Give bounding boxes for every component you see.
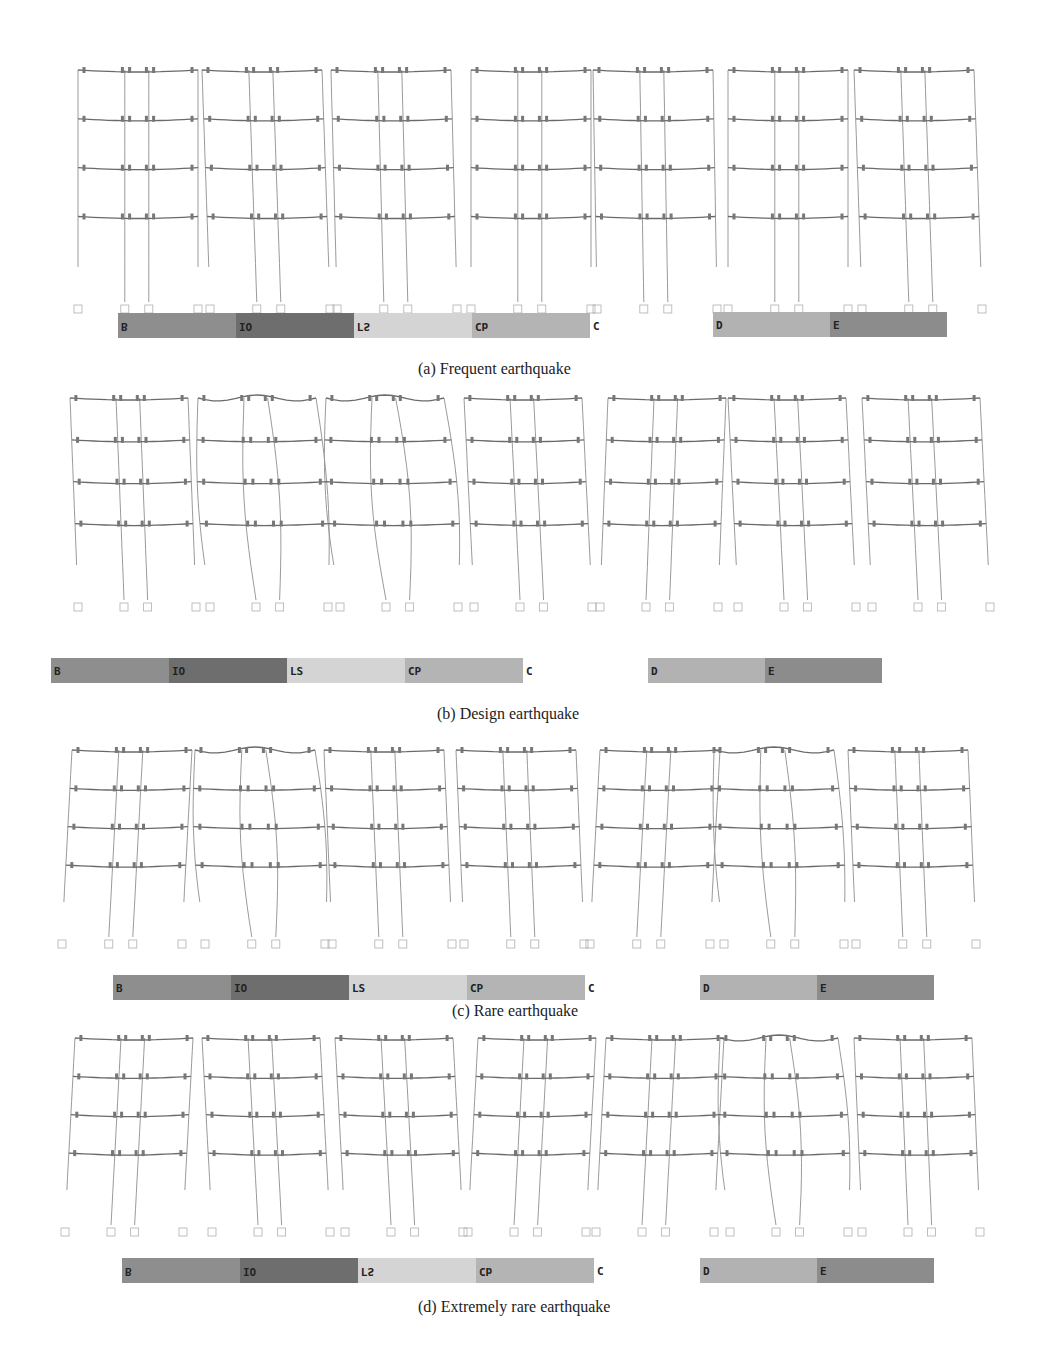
- legend-segment-e: E: [765, 658, 882, 683]
- deformed-frame: [854, 67, 986, 313]
- legend-label: C: [597, 1264, 604, 1277]
- deformed-frame: [197, 395, 332, 611]
- legend-segment-e: E: [817, 975, 934, 1000]
- frames-drawing: [0, 385, 1039, 685]
- deformed-frame: [848, 747, 980, 948]
- deformed-frame: [593, 67, 721, 313]
- legend-label: D: [703, 981, 710, 994]
- deformed-frame: [202, 67, 334, 313]
- deformed-frame: [862, 395, 994, 611]
- deformed-frame: [324, 747, 456, 948]
- legend-label: CP: [408, 664, 421, 677]
- legend-segment-io: IO: [231, 975, 349, 1000]
- legend-label: IO: [239, 319, 252, 332]
- legend-label: ΓS: [357, 319, 370, 332]
- legend-label: E: [833, 318, 840, 331]
- legend-segment-cp: CP: [405, 658, 523, 683]
- deformed-frame: [61, 1035, 193, 1236]
- legend-segment-c: C: [523, 658, 539, 683]
- legend-segment-ls: ΓS: [358, 1258, 476, 1283]
- legend-segment-e: E: [830, 312, 947, 337]
- legend-segment-c: C: [590, 313, 606, 338]
- deformed-frame: [58, 747, 192, 948]
- legend-segment-io: IO: [240, 1258, 358, 1283]
- legend-segment-c: C: [585, 975, 601, 1000]
- deformed-frame: [586, 747, 720, 948]
- legend-segment-d: D: [648, 658, 765, 683]
- legend-segment-ls: LS: [287, 658, 405, 683]
- deformed-frame: [193, 747, 329, 948]
- hinge-state-legend: BIOΓSCbC: [118, 313, 606, 338]
- panel-a: BIOΓSCbCDE(a) Frequent earthquake: [0, 40, 1039, 370]
- panel-caption: (d) Extremely rare earthquake: [418, 1298, 610, 1316]
- deformed-frame: [324, 395, 462, 611]
- deformed-frame: [596, 395, 726, 611]
- legend-label: E: [820, 1264, 827, 1277]
- legend-segment-e: E: [817, 1258, 934, 1283]
- legend-label: D: [703, 1264, 710, 1277]
- deformed-frame: [718, 1035, 852, 1236]
- legend-label: IO: [234, 981, 247, 994]
- legend-label: B: [121, 319, 128, 332]
- legend-segment-d: D: [700, 975, 817, 1000]
- hinge-state-legend: BIOLSCPC: [113, 975, 601, 1000]
- legend-segment-b: B: [51, 658, 169, 683]
- legend-label: D: [716, 318, 723, 331]
- legend-label: Cb: [479, 1264, 492, 1277]
- legend-segment-io: IO: [236, 313, 354, 338]
- panel-b: BIOLSCPCDE(b) Design earthquake: [0, 385, 1039, 715]
- legend-segment-d: D: [713, 312, 830, 337]
- deformed-frame: [464, 1035, 596, 1236]
- legend-segment-b: B: [113, 975, 231, 1000]
- hinge-state-legend-secondary: DE: [713, 312, 947, 337]
- deformed-frame: [202, 1035, 334, 1236]
- legend-segment-cp: Cb: [472, 313, 590, 338]
- panel-d: BIOΓSCbCDE(d) Extremely rare earthquake: [0, 1030, 1039, 1359]
- legend-segment-b: B: [122, 1258, 240, 1283]
- legend-label: C: [588, 981, 595, 994]
- legend-segment-c: C: [594, 1258, 610, 1283]
- legend-label: IO: [243, 1264, 256, 1277]
- legend-label: D: [651, 664, 658, 677]
- legend-label: ΓS: [361, 1264, 374, 1277]
- legend-label: B: [54, 664, 61, 677]
- legend-label: LS: [290, 664, 303, 677]
- deformed-frame: [713, 747, 848, 948]
- hinge-state-legend: BIOΓSCbC: [122, 1258, 610, 1283]
- legend-label: Cb: [475, 319, 488, 332]
- legend-label: B: [116, 981, 123, 994]
- deformed-frame: [464, 395, 596, 611]
- legend-segment-ls: LS: [349, 975, 467, 1000]
- deformed-frame: [592, 1035, 724, 1236]
- deformed-frame: [854, 1035, 984, 1236]
- panel-caption: (c) Rare earthquake: [452, 1002, 578, 1020]
- legend-label: CP: [470, 981, 483, 994]
- legend-segment-d: D: [700, 1258, 817, 1283]
- legend-segment-cp: CP: [467, 975, 585, 1000]
- deformed-frame: [456, 747, 588, 948]
- deformed-frame: [74, 67, 202, 313]
- hinge-state-legend-secondary: DE: [648, 658, 882, 683]
- deformed-frame: [70, 395, 200, 611]
- legend-label: C: [526, 664, 533, 677]
- legend-label: LS: [352, 981, 365, 994]
- deformed-frame: [724, 67, 852, 313]
- deformed-frame: [331, 67, 461, 313]
- legend-label: C: [593, 319, 600, 332]
- frames-drawing: [0, 1030, 1039, 1330]
- panel-c: BIOLSCPCDE(c) Rare earthquake: [0, 742, 1039, 1072]
- panel-caption: (a) Frequent earthquake: [418, 360, 571, 378]
- hinge-state-legend-secondary: DE: [700, 1258, 934, 1283]
- deformed-frame: [335, 1035, 467, 1236]
- legend-segment-io: IO: [169, 658, 287, 683]
- hinge-state-legend: BIOLSCPC: [51, 658, 539, 683]
- frames-drawing: [0, 40, 1039, 340]
- panel-caption: (b) Design earthquake: [437, 705, 579, 723]
- legend-label: B: [125, 1264, 132, 1277]
- legend-label: E: [768, 664, 775, 677]
- legend-label: E: [820, 981, 827, 994]
- deformed-frame: [467, 67, 595, 313]
- legend-label: IO: [172, 664, 185, 677]
- legend-segment-cp: Cb: [476, 1258, 594, 1283]
- legend-segment-b: B: [118, 313, 236, 338]
